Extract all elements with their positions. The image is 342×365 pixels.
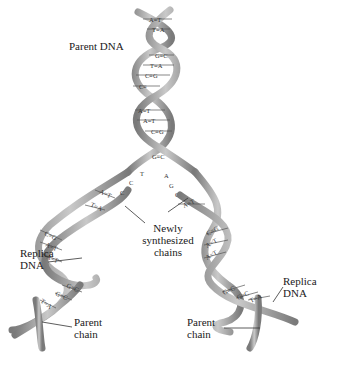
base-pair: G≡C: [155, 52, 168, 59]
fork-base: G: [169, 182, 174, 189]
label-line: chain: [187, 328, 215, 340]
base-pair: C≡G: [145, 72, 158, 79]
label-replica-dna-right: Replica DNA: [283, 275, 317, 299]
dna-replication-diagram: A=T T=A G≡C T=A C≡G C≡ A=T A=T C≡G G≡C A…: [0, 0, 342, 365]
base-pair: T=A: [152, 26, 165, 33]
base-pair: A=T: [99, 188, 113, 200]
label-parent-chain-right: Parent chain: [187, 316, 215, 340]
parent-helix: [128, 10, 195, 172]
fork-base: C: [129, 179, 133, 186]
fork-base: C: [120, 189, 124, 196]
label-line: Replica: [20, 247, 54, 259]
label-parent-dna: Parent DNA: [69, 40, 124, 52]
label-newly-synthesized-chains: Newly synthesized chains: [128, 222, 208, 258]
base-pair: G≡C: [152, 153, 165, 160]
label-replica-dna-left: Replica DNA: [20, 247, 54, 271]
label-line: synthesized: [128, 234, 208, 246]
fork-base: T: [140, 170, 144, 177]
label-parent-chain-left: Parent chain: [74, 316, 102, 340]
base-pair: C≡: [139, 83, 147, 90]
leader-parent-left: [42, 322, 72, 327]
label-line: Replica: [283, 275, 317, 287]
base-pair: T=A: [150, 62, 163, 69]
leader-replica-right: [273, 287, 283, 302]
base-pair: A=T: [138, 107, 150, 114]
base-pair: A=T: [149, 16, 161, 23]
base-pair: A=T: [143, 117, 155, 124]
label-line: Parent: [74, 316, 102, 328]
label-line: chain: [74, 328, 102, 340]
label-line: Parent: [187, 316, 215, 328]
label-line: Newly: [128, 222, 208, 234]
leader-newly-left: [125, 206, 145, 223]
label-line: DNA: [283, 287, 317, 299]
fork-base: A: [164, 172, 169, 179]
label-line: DNA: [20, 259, 54, 271]
label-line: chains: [128, 246, 208, 258]
base-pair: C≡G: [151, 128, 164, 135]
